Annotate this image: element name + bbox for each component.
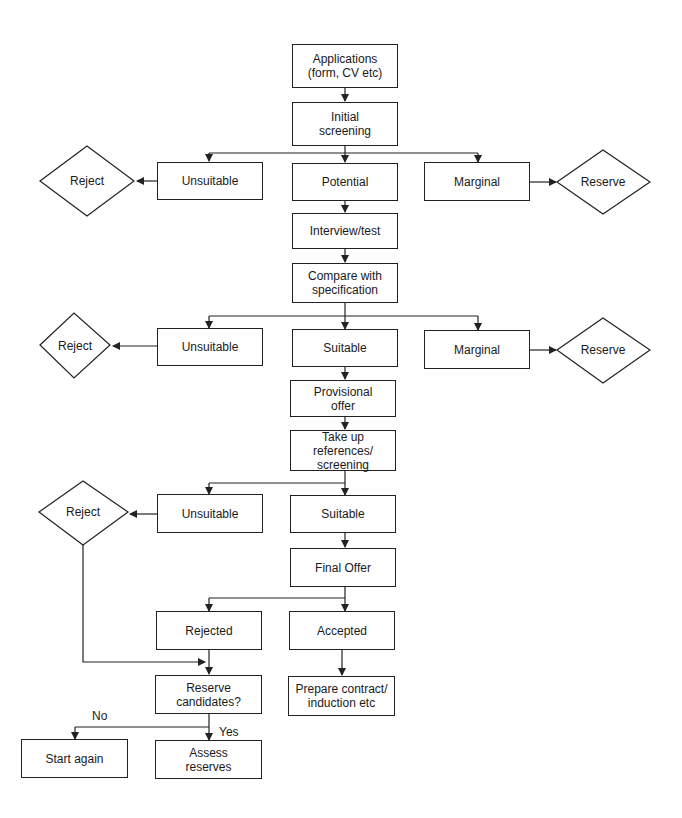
- edge-label-yes: Yes: [219, 725, 239, 739]
- node-accepted: Accepted: [289, 611, 395, 650]
- node-reserve-candidates: Reserve candidates?: [155, 675, 262, 714]
- node-potential: Potential: [292, 163, 398, 201]
- node-marginal-1: Marginal: [424, 162, 530, 201]
- node-provisional-offer: Provisional offer: [290, 380, 396, 417]
- node-marginal-2: Marginal: [424, 330, 530, 369]
- edge-label-no: No: [92, 709, 107, 723]
- node-reject-3: Reject: [45, 503, 121, 521]
- node-unsuitable-2: Unsuitable: [157, 328, 263, 366]
- node-reject-2: Reject: [40, 337, 110, 355]
- node-interview-test: Interview/test: [292, 213, 398, 249]
- node-reserve-1: Reserve: [563, 173, 643, 191]
- node-rejected: Rejected: [156, 611, 262, 650]
- node-unsuitable-1: Unsuitable: [157, 162, 263, 200]
- node-final-offer: Final Offer: [290, 548, 396, 587]
- node-unsuitable-3: Unsuitable: [157, 494, 263, 533]
- node-assess-reserves: Assess reserves: [155, 740, 262, 779]
- node-compare-specification: Compare with specification: [292, 263, 398, 303]
- node-reserve-2: Reserve: [563, 341, 643, 359]
- node-suitable-3: Suitable: [290, 495, 396, 533]
- node-applications: Applications (form, CV etc): [292, 44, 398, 88]
- node-suitable-2: Suitable: [292, 329, 398, 367]
- node-reject-1: Reject: [47, 172, 127, 190]
- node-start-again: Start again: [21, 739, 128, 778]
- node-prepare-contract: Prepare contract/ induction etc: [288, 676, 395, 716]
- node-take-up-references: Take up references/ screening: [290, 430, 396, 471]
- node-initial-screening: Initial screening: [292, 102, 398, 146]
